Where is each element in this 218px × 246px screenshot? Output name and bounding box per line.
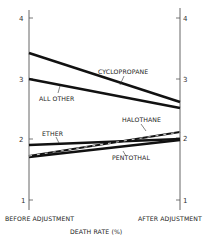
series-labels: CYCLOPROPANE ALL OTHER ETHER HALOTHANE P… (39, 68, 161, 161)
x-category-before: BEFORE ADJUSTMENT (5, 215, 74, 223)
left-tick-2: 2 (19, 136, 23, 144)
right-tick-4: 4 (183, 15, 188, 23)
right-tick-3: 3 (183, 76, 187, 84)
right-axis: 4 3 2 1 (176, 8, 188, 210)
label-cyclopropane: CYCLOPROPANE (98, 68, 148, 75)
label-ether: ETHER (42, 130, 64, 137)
label-halothane: HALOTHANE (122, 116, 161, 123)
right-tick-1: 1 (183, 197, 187, 205)
x-axis-title: DEATH RATE (%) (70, 228, 122, 235)
left-tick-1: 1 (21, 197, 25, 205)
right-tick-2: 2 (183, 135, 187, 143)
left-tick-4: 4 (19, 15, 24, 23)
x-category-after: AFTER ADJUSTMENT (138, 215, 202, 223)
label-all-other: ALL OTHER (39, 95, 75, 102)
line-chart: 4 3 2 1 4 3 2 1 CYCLOPROPANE ALL OTHER E… (0, 0, 218, 246)
left-tick-3: 3 (19, 76, 23, 84)
left-axis: 4 3 2 1 (19, 10, 33, 210)
label-pentothal: PENTOTHAL (112, 154, 150, 161)
